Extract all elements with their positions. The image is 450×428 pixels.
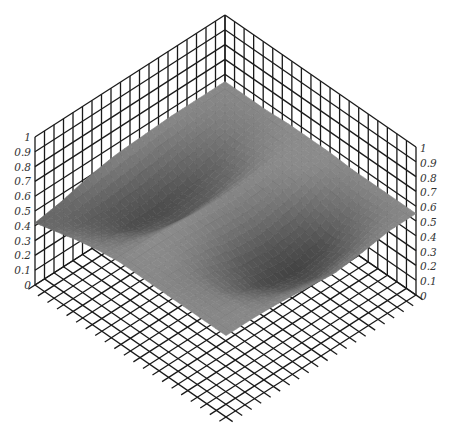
- z-tick-label-right: 0.1: [420, 275, 437, 287]
- z-tick-label-right: 0.4: [420, 231, 437, 243]
- z-axis-right-ticks: 00.10.20.30.40.50.60.70.80.91: [420, 142, 437, 302]
- z-tick-label-left: 0.1: [14, 264, 31, 276]
- z-tick-label-left: 0.7: [14, 175, 31, 187]
- z-tick-label-right: 0.8: [420, 172, 437, 184]
- z-tick-label-left: 1: [24, 131, 31, 143]
- z-tick-label-left: 0.6: [14, 190, 31, 202]
- surface-plot: 00.10.20.30.40.50.60.70.80.91 00.10.20.3…: [0, 0, 450, 428]
- z-tick-label-right: 0.5: [420, 216, 437, 228]
- z-tick-label-left: 0.9: [14, 146, 31, 158]
- z-tick-label-left: 0: [24, 279, 31, 291]
- z-tick-label-right: 0.9: [420, 157, 437, 169]
- z-tick-label-left: 0.4: [14, 220, 31, 232]
- z-tick-label-left: 0.2: [14, 249, 31, 261]
- z-tick-label-right: 0.3: [420, 246, 437, 258]
- z-tick-label-right: 0: [420, 290, 427, 302]
- z-tick-label-right: 0.6: [420, 201, 437, 213]
- z-tick-label-left: 0.8: [14, 161, 31, 173]
- z-tick-label-right: 0.7: [420, 186, 437, 198]
- z-axis-left-ticks: 00.10.20.30.40.50.60.70.80.91: [14, 131, 31, 291]
- z-tick-label-right: 0.2: [420, 260, 437, 272]
- z-tick-label-left: 0.5: [14, 205, 31, 217]
- z-tick-label-left: 0.3: [14, 235, 31, 247]
- z-tick-label-right: 1: [420, 142, 427, 154]
